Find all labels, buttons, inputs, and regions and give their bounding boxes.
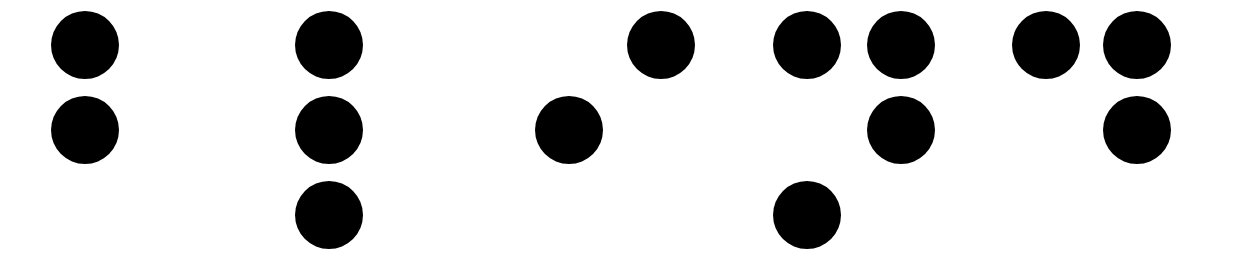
braille-dot-5-4 — [1103, 11, 1171, 79]
braille-dot-5-1 — [1012, 11, 1080, 79]
braille-dot-5-5 — [1103, 96, 1171, 164]
braille-cell-5 — [0, 0, 1238, 268]
braille-dot-canvas — [0, 0, 1238, 268]
